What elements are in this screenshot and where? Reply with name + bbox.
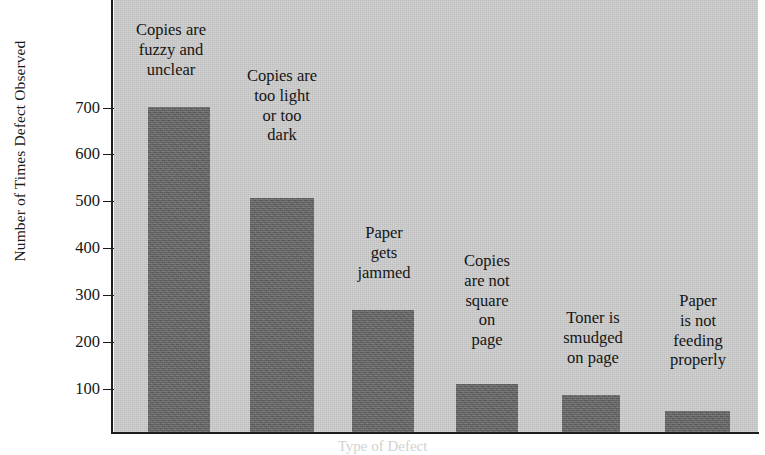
bar-paper-jammed[interactable] xyxy=(352,310,414,432)
bar-copies-fuzzy[interactable] xyxy=(148,107,210,432)
y-axis-line xyxy=(111,0,113,434)
bar-label-copies-light-dark: Copies are too light or too dark xyxy=(226,66,338,145)
bar-label-paper-jammed: Paper gets jammed xyxy=(336,223,432,282)
y-axis-title: Number of Times Defect Observed xyxy=(11,0,29,311)
y-tick-label-200: 200 xyxy=(40,334,100,351)
bar-copies-light-dark[interactable] xyxy=(250,198,314,432)
bar-toner-smudged[interactable] xyxy=(562,395,620,432)
bar-label-toner-smudged: Toner is smudged on page xyxy=(548,308,638,367)
y-tick-label-100: 100 xyxy=(40,381,100,398)
y-axis-tick-labels: 700 600 500 400 300 200 100 xyxy=(40,0,100,451)
bar-copies-not-square[interactable] xyxy=(456,384,518,432)
y-tick-label-400: 400 xyxy=(40,240,100,257)
bar-label-copies-fuzzy: Copies are fuzzy and unclear xyxy=(118,20,224,79)
y-tick-label-300: 300 xyxy=(40,287,100,304)
x-axis-title: Type of Defect xyxy=(0,438,765,455)
bar-label-copies-not-square: Copies are not square on page xyxy=(442,251,532,350)
x-axis-line xyxy=(111,432,759,434)
y-tick-label-500: 500 xyxy=(40,193,100,210)
bar-label-paper-not-feeding: Paper is not feeding properly xyxy=(652,291,744,370)
bar-paper-not-feeding[interactable] xyxy=(665,411,730,432)
y-tick-label-700: 700 xyxy=(40,100,100,117)
y-tick-label-600: 600 xyxy=(40,146,100,163)
